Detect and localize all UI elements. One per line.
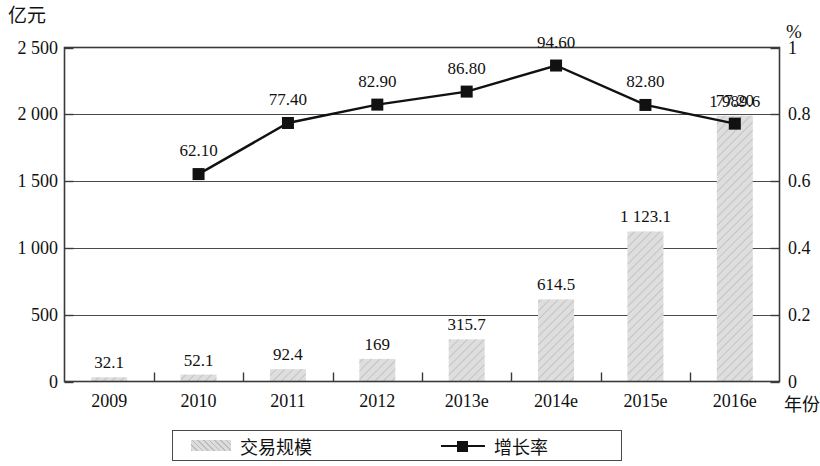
bar-value-label: 614.5 <box>537 276 575 293</box>
bar-value-label: 315.7 <box>448 316 486 333</box>
secondary-y-axis-tick-label: 0.8 <box>788 105 820 123</box>
x-axis-tick-label: 2013e <box>417 392 517 410</box>
x-axis-tick-label: 2011 <box>238 392 338 410</box>
secondary-y-axis-tick-label: 0.6 <box>788 172 820 190</box>
x-axis-tick-label: 2014e <box>506 392 606 410</box>
line-value-label: 77.20 <box>716 92 754 109</box>
x-axis-tick-label: 2012 <box>327 392 427 410</box>
y-axis-tick-label: 500 <box>0 306 58 324</box>
gridlines <box>65 115 780 316</box>
line-value-label: 94.60 <box>537 34 575 51</box>
bar-value-label: 52.1 <box>184 352 214 369</box>
secondary-y-axis-tick-label: 0 <box>788 373 820 391</box>
bar-value-label: 92.4 <box>273 346 303 363</box>
y-axis-tick-label: 1 500 <box>0 172 58 190</box>
y-axis-tick-label: 0 <box>0 373 58 391</box>
x-axis-tick-label: 2015e <box>595 392 695 410</box>
line-value-label: 82.80 <box>626 73 664 90</box>
line-value-label: 62.10 <box>179 142 217 159</box>
line-value-label: 86.80 <box>448 60 486 77</box>
bar-value-label: 1 123.1 <box>620 208 671 225</box>
line-value-label: 82.90 <box>358 73 396 90</box>
legend-item-line: 增长率 <box>441 431 548 460</box>
x-axis-tick-label: 2016e <box>685 392 785 410</box>
secondary-y-axis-tick-label: 1 <box>788 39 820 57</box>
legend-bar-swatch-icon <box>191 440 231 451</box>
y-axis-tick-label: 1 000 <box>0 239 58 257</box>
legend-line-label: 增长率 <box>494 433 548 459</box>
legend-item-bar: 交易规模 <box>191 431 312 460</box>
bar-value-label: 32.1 <box>94 354 124 371</box>
bar-value-label: 169 <box>365 336 391 353</box>
y-axis-tick-label: 2 500 <box>0 39 58 57</box>
line-value-label: 77.40 <box>269 91 307 108</box>
x-axis-tick-label: 2009 <box>59 392 159 410</box>
secondary-y-axis-tick-label: 0.2 <box>788 306 820 324</box>
chart-container: 亿元 % 年份 05001 0001 5002 0002 500 00.20.4… <box>0 0 820 466</box>
secondary-y-axis-tick-label: 0.4 <box>788 239 820 257</box>
x-axis-tick-label: 2010 <box>149 392 249 410</box>
y-axis-tick-label: 2 000 <box>0 105 58 123</box>
legend: 交易规模 增长率 <box>172 430 622 461</box>
legend-bar-label: 交易规模 <box>240 433 312 459</box>
legend-line-swatch-icon <box>441 440 485 452</box>
